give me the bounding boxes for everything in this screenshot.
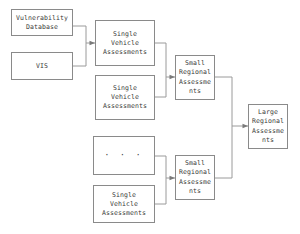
node-single-vehicle-assessments-2: Single Vehicle Assessments (95, 75, 155, 120)
diagram-canvas: Vulnerability Database VIS Single Vehicl… (0, 0, 300, 234)
node-vis: VIS (11, 52, 73, 80)
node-single-vehicle-assessments-3: Single Vehicle Assessments (93, 185, 155, 223)
wire-vulndb-to-sva1 (73, 26, 95, 43)
node-label: Vulnerability Database (16, 14, 68, 32)
node-label: Single Vehicle Assessments (103, 84, 147, 111)
wire-sra2-to-lra (215, 126, 232, 178)
wire-sva3-to-sra2 (155, 178, 166, 204)
wire-sva1-to-sra1 (155, 43, 175, 77)
node-large-regional-assessments: Large Regional Assessme nts (248, 104, 288, 149)
node-label: Single Vehicle Assessments (102, 191, 146, 218)
node-small-regional-assessments-2: Small Regional Assessme nts (175, 155, 215, 200)
node-label: · · · (104, 151, 143, 160)
node-label: Large Regional Assessme nts (252, 108, 284, 146)
node-label: Small Regional Assessme nts (179, 59, 211, 97)
node-ellipsis-vehicles: · · · (93, 136, 155, 175)
wire-ellipsis-to-sra2 (155, 156, 175, 178)
wire-sva2-to-sra1 (155, 77, 166, 97)
node-small-regional-assessments-1: Small Regional Assessme nts (175, 55, 215, 100)
node-vulnerability-database: Vulnerability Database (11, 9, 73, 36)
node-label: Single Vehicle Assessments (103, 30, 147, 57)
wire-vis-to-sva1 (73, 43, 86, 66)
node-single-vehicle-assessments-1: Single Vehicle Assessments (95, 20, 155, 66)
wire-sra1-to-lra (215, 77, 248, 126)
node-label: Small Regional Assessme nts (179, 159, 211, 197)
node-label: VIS (36, 62, 48, 71)
